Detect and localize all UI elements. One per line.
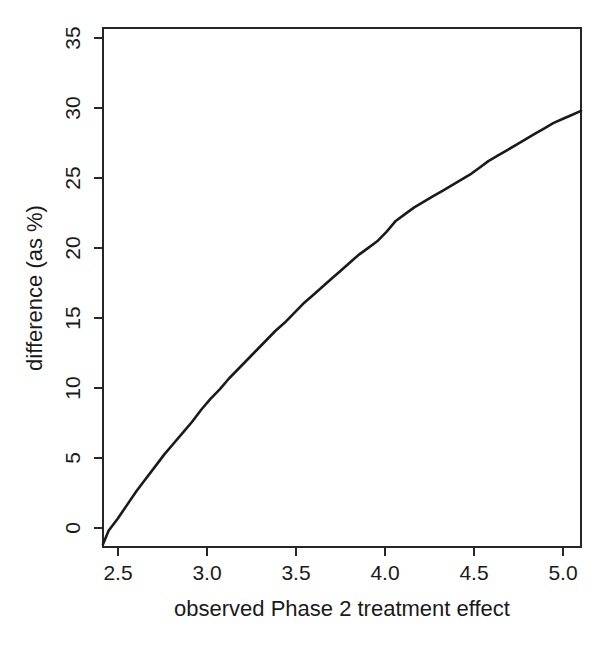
- x-tick-label-2-5: 2.5: [103, 561, 132, 584]
- x-tick-label-4-5: 4.5: [459, 561, 488, 584]
- x-tick-label-5-0: 5.0: [548, 561, 577, 584]
- x-axis-ticks: [118, 547, 563, 556]
- y-axis-tick-labels: 0 5 10 15 20 25 30 35: [61, 26, 84, 534]
- y-tick-label-35: 35: [61, 26, 84, 49]
- plot-panel-background: [103, 28, 581, 547]
- y-tick-label-25: 25: [61, 166, 84, 189]
- y-axis-ticks: [94, 38, 103, 528]
- x-axis-title: observed Phase 2 treatment effect: [174, 596, 510, 621]
- y-tick-label-10: 10: [61, 376, 84, 399]
- y-tick-label-15: 15: [61, 306, 84, 329]
- y-tick-label-30: 30: [61, 96, 84, 119]
- y-axis-title: difference (as %): [22, 205, 47, 371]
- chart-figure: 0 5 10 15 20 25 30 35 2.5 3.0 3.5 4.0 4.…: [0, 0, 609, 646]
- x-tick-label-3-0: 3.0: [192, 561, 221, 584]
- y-tick-label-0: 0: [61, 522, 84, 534]
- x-tick-label-4-0: 4.0: [370, 561, 399, 584]
- y-tick-label-5: 5: [61, 452, 84, 464]
- chart-canvas: 0 5 10 15 20 25 30 35 2.5 3.0 3.5 4.0 4.…: [0, 0, 609, 646]
- x-tick-label-3-5: 3.5: [281, 561, 310, 584]
- y-tick-label-20: 20: [61, 236, 84, 259]
- x-axis-tick-labels: 2.5 3.0 3.5 4.0 4.5 5.0: [103, 561, 577, 584]
